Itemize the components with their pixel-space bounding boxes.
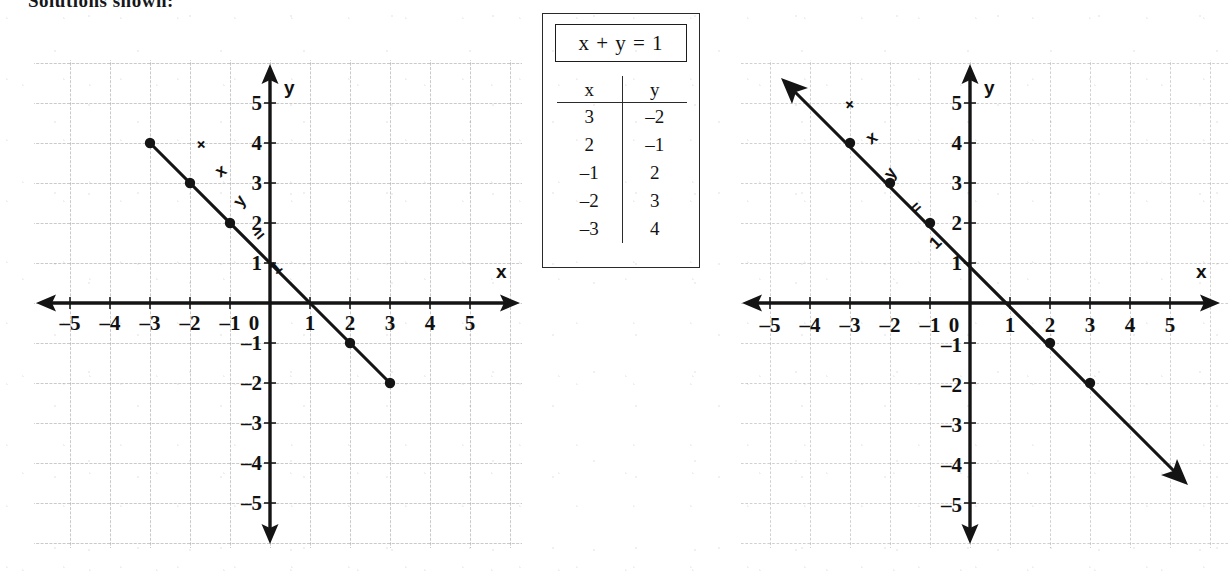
worksheet-page: Solutions shown: (0, 0, 1228, 571)
svg-text:–1: –1 (219, 311, 241, 335)
svg-text:–4: –4 (940, 453, 963, 477)
svg-text:–3: –3 (139, 311, 161, 335)
cell-y: –1 (622, 131, 687, 159)
left-graph-x-axis-label: x (496, 261, 507, 282)
svg-text:2: 2 (1045, 313, 1056, 337)
solutions-table-box: x + y = 1 x y 3 –2 2 –1 –1 2 (542, 13, 700, 268)
svg-text:–3: –3 (940, 413, 962, 437)
svg-text:5: 5 (465, 311, 476, 335)
svg-text:–4: –4 (240, 451, 263, 475)
cell-x: –3 (557, 215, 622, 243)
svg-text:1: 1 (305, 311, 316, 335)
svg-text:–1: –1 (240, 331, 262, 355)
svg-text:1: 1 (252, 251, 263, 275)
column-header-x: x (557, 76, 622, 103)
left-graph-panel: + x y = 1 x y –5 –4 –3 –2 –1 0 1 2 3 4 (34, 60, 522, 548)
right-graph-svg: + x y = 1 x y –5 –4 –3 –2 –1 0 1 2 3 4 5 (740, 60, 1228, 548)
svg-text:1: 1 (1005, 313, 1016, 337)
table-row: –1 2 (557, 159, 687, 187)
svg-text:–4: –4 (799, 313, 822, 337)
svg-text:2: 2 (952, 211, 963, 235)
column-header-y: y (622, 76, 687, 103)
svg-text:–4: –4 (99, 311, 122, 335)
right-graph-panel: + x y = 1 x y –5 –4 –3 –2 –1 0 1 2 3 4 5 (740, 60, 1228, 548)
point--2-3 (185, 178, 195, 188)
point-2--1 (1045, 338, 1055, 348)
right-graph-y-axis-label: y (984, 77, 995, 98)
svg-text:5: 5 (1165, 313, 1176, 337)
solutions-table: x y 3 –2 2 –1 –1 2 –2 3 (557, 76, 687, 243)
svg-text:4: 4 (252, 131, 263, 155)
table-header-row: x y (557, 76, 687, 103)
svg-text:4: 4 (952, 131, 963, 155)
svg-text:3: 3 (385, 311, 396, 335)
point--1-2 (925, 218, 935, 228)
svg-text:–1: –1 (919, 313, 941, 337)
point-3--2 (385, 378, 395, 388)
table-row: 2 –1 (557, 131, 687, 159)
cell-x: –1 (557, 159, 622, 187)
cell-x: 2 (557, 131, 622, 159)
svg-text:3: 3 (252, 171, 263, 195)
svg-text:–5: –5 (240, 491, 262, 515)
cell-x: 3 (557, 103, 622, 132)
table-row: 3 –2 (557, 103, 687, 132)
right-graph-x-axis-label: x (1196, 261, 1207, 282)
svg-text:–3: –3 (240, 411, 262, 435)
svg-text:4: 4 (425, 311, 436, 335)
point--1-2 (225, 218, 235, 228)
svg-text:–3: –3 (839, 313, 861, 337)
cell-y: 3 (622, 187, 687, 215)
svg-text:–2: –2 (240, 371, 262, 395)
svg-text:–2: –2 (879, 313, 901, 337)
svg-text:–2: –2 (179, 311, 201, 335)
cell-y: 2 (622, 159, 687, 187)
point--3-4 (845, 138, 855, 148)
cell-y: 4 (622, 215, 687, 243)
left-graph-svg: + x y = 1 x y –5 –4 –3 –2 –1 0 1 2 3 4 (34, 60, 522, 548)
page-heading: Solutions shown: (28, 0, 174, 12)
table-equation-title: x + y = 1 (555, 24, 687, 62)
svg-text:3: 3 (952, 171, 963, 195)
point--3-4 (145, 138, 155, 148)
svg-text:3: 3 (1085, 313, 1096, 337)
svg-text:–5: –5 (59, 311, 81, 335)
cell-x: –2 (557, 187, 622, 215)
left-graph-y-axis-label: y (284, 77, 295, 98)
cell-y: –2 (622, 103, 687, 132)
point-3--2 (1085, 378, 1095, 388)
svg-text:2: 2 (252, 211, 263, 235)
svg-text:–1: –1 (940, 333, 962, 357)
svg-text:1: 1 (952, 251, 963, 275)
table-row: –3 4 (557, 215, 687, 243)
table-row: –2 3 (557, 187, 687, 215)
svg-text:–2: –2 (940, 373, 962, 397)
svg-text:4: 4 (1125, 313, 1136, 337)
point-2--1 (345, 338, 355, 348)
svg-text:5: 5 (252, 91, 263, 115)
svg-text:2: 2 (345, 311, 356, 335)
svg-text:5: 5 (952, 91, 963, 115)
svg-text:–5: –5 (940, 493, 962, 517)
svg-text:–5: –5 (759, 313, 781, 337)
